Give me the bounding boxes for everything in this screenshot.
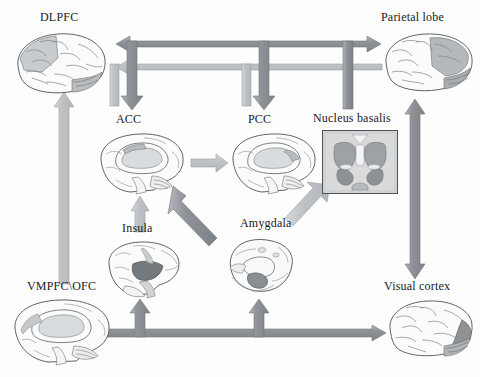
label-parietal: Parietal lobe [381,10,444,25]
connection-bus-pcc-down [253,41,275,110]
diagram-canvas: DLPFC Parietal lobe [0,0,480,377]
label-nucleus-basalis: Nucleus basalis [313,111,391,126]
connection-parietal-to-visual-cortex [405,99,425,279]
connection-bus-nucleus-basalis [343,41,353,109]
node-pcc [228,130,320,198]
node-dlpfc [12,28,110,100]
node-visual-cortex [386,296,476,362]
label-amygdala: Amygdala [240,216,292,231]
connection-vmpfc-to-dlpfc [54,92,74,284]
connection-acc-to-pcc [191,154,228,172]
label-visual-cortex: Visual cortex [384,279,450,294]
node-insula [105,238,183,302]
connection-bus-top [116,36,381,52]
connection-bus-acc-up [110,64,119,106]
connection-bus-acc-down [121,41,143,110]
node-vmpfc-ofc [10,296,114,368]
label-acc: ACC [116,112,141,127]
label-pcc: PCC [248,112,271,127]
connection-bottom-bus [86,325,386,341]
label-vmpfc-ofc: VMPFC\OFC [27,279,96,294]
label-dlpfc: DLPFC [40,10,78,25]
node-nucleus-basalis [322,130,398,194]
connection-bus-pcc-up [242,64,251,106]
node-parietal [382,28,476,98]
label-insula: Insula [122,221,153,236]
node-amygdala [222,233,300,301]
node-acc [96,130,188,198]
